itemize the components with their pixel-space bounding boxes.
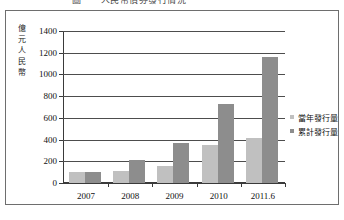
- x-axis-line: [63, 183, 286, 184]
- bar-2008-series-1: [129, 160, 145, 183]
- y-tick-label-0: 0: [53, 178, 58, 188]
- y-tick-label-1400: 1400: [39, 26, 57, 36]
- y-tick-1000: [59, 74, 63, 75]
- x-label-2008: 2008: [121, 191, 139, 201]
- y-tick-800: [59, 96, 63, 97]
- chart-legend: 當年發行量 累計發行量: [290, 110, 338, 138]
- x-tick-2011.6: [241, 183, 242, 187]
- y-tick-600: [59, 118, 63, 119]
- x-tick-2008: [108, 183, 109, 187]
- y-tick-label-200: 200: [44, 156, 58, 166]
- y-tick-label-600: 600: [44, 113, 58, 123]
- legend-entry-current-year: 當年發行量: [290, 110, 338, 124]
- x-label-2010: 2010: [210, 191, 228, 201]
- y-axis-title-char-1: 元: [15, 34, 28, 45]
- bar-2011.6-series-1: [262, 57, 278, 183]
- y-tick-200: [59, 161, 63, 162]
- x-label-2011.6: 2011.6: [251, 191, 275, 201]
- y-axis-title-char-0: 億: [15, 23, 28, 34]
- x-tick-2010: [197, 183, 198, 187]
- bar-2007-series-1: [85, 172, 101, 183]
- bar-2011.6-series-0: [246, 138, 262, 183]
- legend-swatch-current-year-icon: [290, 115, 294, 119]
- y-tick-label-400: 400: [44, 135, 58, 145]
- x-label-2007: 2007: [77, 191, 95, 201]
- bar-group-2009: [152, 31, 196, 183]
- bar-2009-series-1: [173, 143, 189, 183]
- bar-group-2011.6: [241, 31, 285, 183]
- bar-2010-series-1: [218, 104, 234, 183]
- legend-label-current-year: 當年發行量: [298, 112, 338, 123]
- y-tick-1400: [59, 31, 63, 32]
- bar-2007-series-0: [69, 172, 85, 183]
- bars-layer: [64, 31, 285, 183]
- legend-label-cumulative: 累計發行量: [298, 126, 338, 137]
- x-tick-end: [285, 183, 286, 187]
- bar-group-2010: [197, 31, 241, 183]
- y-axis-title-char-3: 民: [15, 56, 28, 67]
- y-tick-1200: [59, 53, 63, 54]
- bar-2009-series-0: [157, 166, 173, 183]
- y-tick-400: [59, 140, 63, 141]
- figure-title: 圖一 人民幣債券發行情況: [72, 0, 186, 6]
- bar-group-2007: [64, 31, 108, 183]
- bar-2010-series-0: [202, 145, 218, 183]
- plot-area: 0200400600800100012001400: [63, 31, 285, 183]
- legend-entry-cumulative: 累計發行量: [290, 124, 338, 138]
- y-axis-title: 億元人民幣: [15, 23, 28, 78]
- bar-2008-series-0: [113, 171, 129, 183]
- bar-group-2008: [108, 31, 152, 183]
- x-label-2009: 2009: [166, 191, 184, 201]
- y-tick-label-800: 800: [44, 91, 58, 101]
- figure-frame: 億元人民幣 0200400600800100012001400 當年發行量 累計…: [5, 10, 339, 205]
- y-axis-title-char-2: 人: [15, 45, 28, 56]
- y-tick-label-1000: 1000: [39, 69, 57, 79]
- y-tick-label-1200: 1200: [39, 48, 57, 58]
- y-axis-title-char-4: 幣: [15, 67, 28, 78]
- legend-swatch-cumulative-icon: [290, 129, 294, 133]
- figure-title-strip: 圖一 人民幣債券發行情況: [0, 0, 344, 9]
- x-tick-2009: [152, 183, 153, 187]
